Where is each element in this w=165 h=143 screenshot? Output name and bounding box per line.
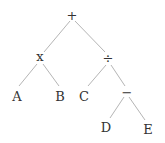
edge-sub-d xyxy=(110,97,124,118)
node-c: C xyxy=(79,90,89,103)
node-multiply: x xyxy=(36,50,43,63)
node-a: A xyxy=(12,90,21,103)
edge-div-c xyxy=(88,65,106,86)
node-plus: + xyxy=(67,9,78,22)
edge-div-sub xyxy=(111,65,125,86)
node-b: B xyxy=(55,90,65,103)
edge-sub-e xyxy=(129,97,145,120)
node-divide: ÷ xyxy=(103,52,114,65)
edge-plus-div xyxy=(75,21,105,52)
edge-x-b xyxy=(43,64,59,86)
edge-plus-x xyxy=(44,21,70,52)
node-d: D xyxy=(101,121,111,134)
edge-x-a xyxy=(19,64,37,86)
node-e: E xyxy=(143,123,153,136)
tree-edges xyxy=(0,0,165,143)
node-subtract: − xyxy=(122,86,133,99)
